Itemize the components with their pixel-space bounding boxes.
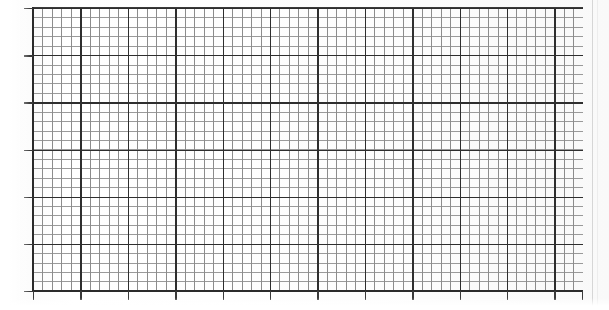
x-axis-tick <box>128 291 129 300</box>
y-axis-tick <box>24 244 33 245</box>
x-axis-tick <box>412 291 413 300</box>
y-axis-tick <box>24 197 33 198</box>
x-axis-tick <box>460 291 461 300</box>
x-axis-tick <box>365 291 366 300</box>
x-axis-tick <box>80 291 81 300</box>
scan-edge-artifact-line-secondary <box>597 0 598 310</box>
y-axis-tick <box>24 150 33 151</box>
x-axis-tick <box>317 291 318 300</box>
y-axis-tick <box>24 8 33 9</box>
axis-bottom-border <box>32 290 583 292</box>
x-axis-tick <box>507 291 508 300</box>
x-axis-tick <box>223 291 224 300</box>
plot-area <box>33 8 583 291</box>
x-axis-tick <box>33 291 34 300</box>
y-axis-tick <box>24 291 33 292</box>
x-axis-tick <box>175 291 176 300</box>
x-axis-tick <box>270 291 271 300</box>
major-gridlines <box>33 8 583 291</box>
graph-paper-sheet <box>0 0 609 310</box>
x-axis-tick <box>554 291 555 300</box>
scan-edge-fade-left <box>0 0 30 310</box>
axis-top-border <box>32 7 583 8</box>
scan-edge-fade-bottom <box>0 298 609 310</box>
x-axis-tick <box>582 291 583 300</box>
y-axis-tick <box>24 55 33 56</box>
scan-edge-artifact-line <box>592 0 593 310</box>
y-axis-tick <box>24 102 33 103</box>
